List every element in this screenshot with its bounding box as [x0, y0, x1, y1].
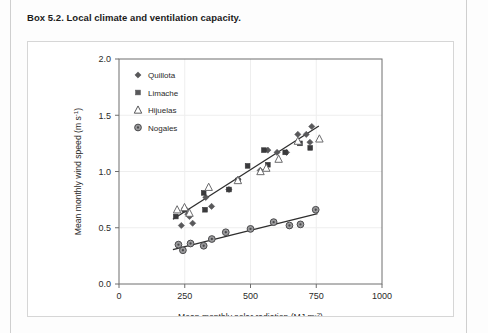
- marker-dot: [189, 242, 191, 244]
- x-axis-tick-label: 1000: [372, 291, 392, 301]
- data-point: [203, 207, 208, 212]
- data-point: [222, 229, 229, 236]
- trendline: [173, 214, 318, 250]
- marker-dot: [211, 238, 213, 240]
- data-point: [181, 203, 188, 210]
- data-point: [175, 241, 182, 248]
- legend-marker-limache: [136, 90, 141, 95]
- legend-label-hijuelas: Hijuelas: [148, 106, 176, 115]
- marker-dot: [315, 209, 317, 211]
- marker-dot: [177, 243, 179, 245]
- legend-label-limache: Limache: [148, 89, 179, 98]
- data-point: [262, 148, 267, 153]
- figure-page: Box 5.2. Local climate and ventilation c…: [0, 0, 488, 333]
- legend-label-nogales: Nogales: [148, 124, 177, 133]
- marker-dot: [137, 126, 139, 128]
- marker-dot: [203, 245, 205, 247]
- marker-dot: [182, 249, 184, 251]
- data-point: [247, 226, 254, 233]
- box-title: Box 5.2. Local climate and ventilation c…: [27, 12, 241, 23]
- data-point: [283, 150, 288, 155]
- data-point: [187, 240, 194, 247]
- marker-dot: [299, 223, 301, 225]
- data-point: [180, 247, 187, 254]
- data-point: [173, 214, 178, 219]
- x-axis-tick-label: 750: [309, 291, 324, 301]
- x-axis-tick-label: 500: [243, 291, 258, 301]
- y-axis-title: Mean monthly wind speed (m s-1): [72, 108, 84, 235]
- data-point: [208, 203, 214, 209]
- data-point: [227, 187, 232, 192]
- data-point: [208, 236, 215, 243]
- y-axis-tick-label: 0.5: [98, 223, 111, 233]
- legend-marker-hijuelas: [134, 106, 141, 113]
- data-point: [307, 139, 313, 145]
- scatter-chart: 025050075010000.00.51.01.52.0Mean monthl…: [28, 42, 453, 316]
- y-axis-tick-label: 0.0: [98, 279, 111, 289]
- figure-panel: 025050075010000.00.51.01.52.0Mean monthl…: [27, 41, 454, 317]
- marker-dot: [288, 224, 290, 226]
- marker-dot: [249, 228, 251, 230]
- data-point: [275, 155, 282, 162]
- marker-dot: [225, 231, 227, 233]
- x-axis-tick-label: 0: [116, 291, 121, 301]
- series-nogales: [175, 206, 319, 253]
- data-point: [190, 220, 196, 226]
- y-axis-tick-label: 1.5: [98, 111, 111, 121]
- legend-label-quillota: Quillota: [148, 71, 176, 80]
- y-axis-tick-label: 1.0: [98, 167, 111, 177]
- data-point: [312, 206, 319, 213]
- x-axis-title: Mean monthly solar radiation (MJ m-2): [178, 311, 323, 317]
- data-point: [201, 191, 206, 196]
- page-rule-right: [466, 0, 467, 333]
- page-rule-left: [10, 0, 11, 333]
- legend-marker-nogales: [135, 124, 142, 131]
- data-point: [205, 183, 212, 190]
- data-point: [297, 221, 304, 228]
- marker-dot: [273, 221, 275, 223]
- y-axis-tick-label: 2.0: [98, 54, 111, 64]
- data-point: [308, 146, 313, 151]
- data-point: [245, 164, 250, 169]
- data-point: [200, 242, 207, 249]
- chart-legend: QuillotaLimacheHijuelasNogales: [134, 71, 179, 133]
- data-point: [286, 222, 293, 229]
- x-axis-tick-label: 250: [177, 291, 192, 301]
- data-point: [173, 206, 180, 213]
- series-limache: [173, 141, 312, 219]
- legend-marker-quillota: [135, 72, 141, 78]
- series-quillota: [178, 123, 315, 228]
- data-point: [270, 219, 277, 226]
- data-point: [316, 135, 323, 142]
